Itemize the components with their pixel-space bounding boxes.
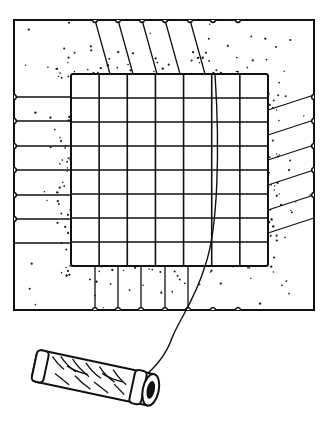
top-thread-windings	[95, 20, 205, 74]
thread-spool	[31, 348, 162, 408]
thread-card-illustration	[0, 0, 332, 436]
bottom-thread-lines	[95, 266, 188, 310]
left-thread-lines	[14, 97, 71, 243]
illustration-canvas	[0, 0, 332, 436]
